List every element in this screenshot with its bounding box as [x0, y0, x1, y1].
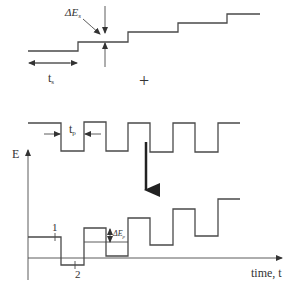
sample-point-1-label: 1 [52, 221, 58, 233]
waveform-diagram: ΔEs ts + tp E time, t 1 2 ΔEp [0, 0, 296, 294]
axes [28, 150, 282, 280]
plus-operator: + [139, 71, 149, 91]
staircase-waveform [28, 14, 260, 51]
pulse-amplitude-label: ΔEp [112, 229, 126, 239]
sample-point-2-label: 2 [75, 268, 81, 280]
y-axis-label: E [12, 147, 19, 161]
x-axis-label: time, t [251, 266, 282, 280]
step-height-label: ΔEs [64, 6, 81, 20]
pulse-time-label: tp [69, 122, 76, 137]
square-pulse-waveform [28, 122, 240, 152]
combined-waveform [28, 199, 240, 265]
step-time-label: ts [48, 71, 54, 86]
step-height-arrows [83, 6, 105, 67]
